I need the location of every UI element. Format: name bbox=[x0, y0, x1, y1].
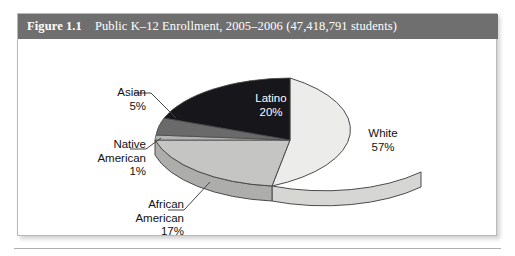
pie-label-african-american-name-line1: African bbox=[148, 198, 184, 210]
pie-label-asian: Asian 5% bbox=[80, 86, 146, 113]
pie-label-asian-percent: 5% bbox=[80, 100, 146, 114]
pie-label-asian-name: Asian bbox=[117, 86, 146, 98]
pie-label-white-percent: 57% bbox=[371, 141, 394, 153]
page-divider-rule bbox=[14, 248, 501, 249]
pie-label-native-american-percent: 1% bbox=[56, 165, 146, 179]
pie-label-latino: Latino 20% bbox=[236, 92, 306, 119]
figure-container: Figure 1.1 Public K–12 Enrollment, 2005–… bbox=[17, 13, 497, 236]
pie-label-native-american-name-line2: American bbox=[97, 152, 146, 164]
pie-label-white: White 57% bbox=[348, 127, 418, 154]
pie-label-african-american-percent: 17% bbox=[56, 225, 184, 239]
pie-chart-area: Asian 5% Native American 1% African Amer… bbox=[18, 39, 496, 235]
pie-label-latino-name: Latino bbox=[255, 92, 286, 104]
pie-label-african-american: African American 17% bbox=[56, 198, 184, 239]
figure-number-label: Figure 1.1 bbox=[27, 19, 82, 34]
pie-label-african-american-name-line2: American bbox=[135, 212, 184, 224]
figure-caption-label: Public K–12 Enrollment, 2005–2006 (47,41… bbox=[95, 19, 397, 34]
pie-label-latino-percent: 20% bbox=[259, 106, 282, 118]
pie-label-native-american-name-line1: Native bbox=[113, 138, 146, 150]
pie-label-white-name: White bbox=[368, 127, 397, 139]
pie-label-native-american: Native American 1% bbox=[56, 138, 146, 179]
figure-title-bar: Figure 1.1 Public K–12 Enrollment, 2005–… bbox=[18, 14, 498, 39]
